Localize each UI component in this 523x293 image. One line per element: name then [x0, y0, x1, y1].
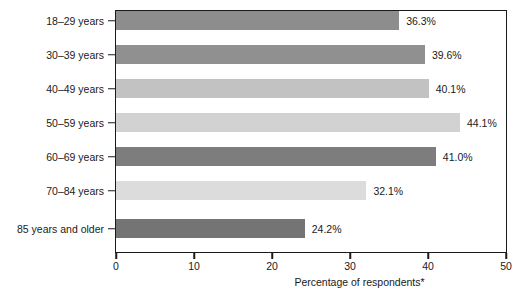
category-tick [108, 228, 115, 230]
bar [116, 45, 425, 64]
bar-row: 24.2% [116, 219, 506, 238]
bar-chart: 18–29 years 30–39 years 40–49 years 50–5… [0, 0, 523, 293]
category-tick [108, 190, 115, 192]
category-tick [108, 20, 115, 22]
bar [116, 113, 460, 132]
bar-value-label: 40.1% [436, 83, 466, 94]
value-tick-label: 0 [113, 261, 119, 272]
category-label: 70–84 years [46, 185, 104, 196]
bar-value-label: 36.3% [406, 15, 436, 26]
category-label: 18–29 years [46, 15, 104, 26]
category-label: 50–59 years [46, 117, 104, 128]
bars-layer: 36.3% 39.6% 40.1% 44.1% 41.0% 32.1% 24.2… [116, 11, 506, 252]
category-axis: 18–29 years 30–39 years 40–49 years 50–5… [0, 0, 104, 293]
value-tick-label: 20 [266, 261, 278, 272]
bar [116, 79, 429, 98]
bar [116, 147, 436, 166]
value-tick [193, 253, 195, 259]
bar-value-label: 24.2% [312, 223, 342, 234]
category-label: 60–69 years [46, 151, 104, 162]
value-tick [271, 253, 273, 259]
bar-value-label: 41.0% [443, 151, 473, 162]
value-tick [349, 253, 351, 259]
bar-value-label: 44.1% [467, 117, 497, 128]
value-tick [505, 253, 507, 259]
bar [116, 181, 366, 200]
category-label: 30–39 years [46, 49, 104, 60]
bar-value-label: 32.1% [373, 185, 403, 196]
value-tick-label: 50 [500, 261, 512, 272]
bar [116, 219, 305, 238]
x-axis-title-text: Percentage of respondents* [294, 277, 424, 288]
bar-row: 44.1% [116, 113, 506, 132]
bar-row: 39.6% [116, 45, 506, 64]
category-label: 85 years and older [17, 223, 104, 234]
bar-row: 40.1% [116, 79, 506, 98]
category-tick [108, 54, 115, 56]
bar [116, 11, 399, 30]
bar-value-label: 39.6% [432, 49, 462, 60]
category-tick [108, 156, 115, 158]
x-axis-title: Percentage of respondents* [0, 277, 523, 288]
category-tick [108, 88, 115, 90]
value-tick-label: 10 [188, 261, 200, 272]
value-tick-label: 40 [422, 261, 434, 272]
bar-row: 41.0% [116, 147, 506, 166]
value-tick-label: 30 [344, 261, 356, 272]
bar-row: 32.1% [116, 181, 506, 200]
value-tick [427, 253, 429, 259]
category-label: 40–49 years [46, 83, 104, 94]
value-tick [115, 253, 117, 259]
bar-row: 36.3% [116, 11, 506, 30]
category-tick [108, 122, 115, 124]
